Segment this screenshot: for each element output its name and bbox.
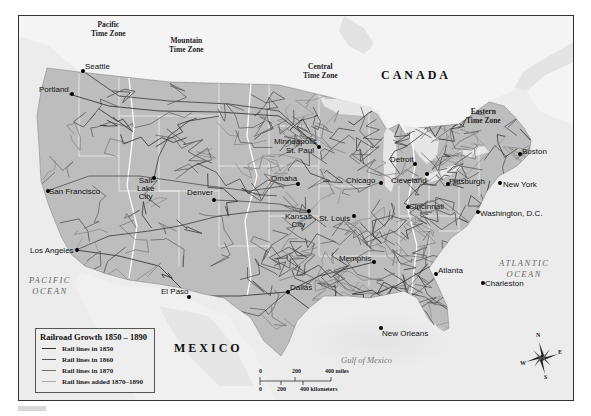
pacific-ocean-label: PACIFICOCEAN	[29, 275, 71, 297]
scale-miles-400: 400 miles	[325, 368, 349, 374]
city-label-pittsburgh: Pittsburgh	[449, 177, 485, 186]
compass-e: E	[558, 349, 562, 355]
city-label-st-paul: St. Paul	[286, 146, 314, 155]
city-label-los-angeles: Los Angeles	[30, 246, 74, 255]
compass-s: S	[544, 374, 547, 380]
city-label-new-orleans: New Orleans	[382, 329, 428, 338]
city-label-washington-dc: Washington, D.C.	[480, 209, 542, 218]
city-label-minneapolis: Minneapolis	[274, 137, 317, 146]
city-marker-st-louis	[352, 214, 356, 218]
city-label-san-francisco: San Francisco	[49, 187, 100, 196]
mexico-label: MEXICO	[174, 341, 243, 356]
legend-item-1860: Rail lines in 1860	[40, 354, 150, 365]
legend-label-1850: Rail lines in 1850	[62, 345, 113, 353]
city-marker-denver	[212, 198, 216, 202]
legend-label-1870: Rail lines in 1870	[62, 367, 113, 375]
scale-km-400: 400 kilometers	[300, 386, 338, 392]
city-label-cleveland: Cleveland	[391, 176, 427, 185]
compass-n: N	[536, 332, 540, 338]
legend-swatch-1870	[42, 370, 56, 371]
scale-km-0: 0	[259, 386, 262, 392]
city-label-st-louis: St. Louis	[319, 214, 350, 223]
legend-swatch-1860	[42, 359, 56, 360]
city-marker-memphis	[372, 260, 376, 264]
city-label-salt-lake-city: SaltLakeCity	[137, 177, 154, 201]
timezone-label-mountain: MountainTime Zone	[169, 36, 204, 54]
legend-swatch-1890	[42, 381, 56, 382]
city-label-omaha: Omaha	[271, 174, 297, 183]
timezone-label-central: CentralTime Zone	[303, 62, 338, 80]
legend-label-1890: Rail lines added 1870–1890	[62, 378, 143, 386]
city-marker-st-paul	[317, 145, 321, 149]
atlantic-ocean-label: ATLANTICOCEAN	[499, 258, 549, 280]
city-label-memphis: Memphis	[339, 254, 371, 263]
city-marker-chicago	[379, 181, 383, 185]
canada-label: CANADA	[381, 68, 451, 83]
city-marker-portland	[70, 92, 74, 96]
map-legend: Railroad Growth 1850 – 1890 Rail lines i…	[35, 328, 155, 393]
timezone-label-eastern: EasternTime Zone	[466, 107, 501, 125]
scale-km-200: 200	[277, 386, 286, 392]
city-label-portland: Portland	[39, 85, 69, 94]
legend-item-1850: Rail lines in 1850	[40, 343, 150, 354]
city-marker-new-york	[498, 181, 502, 185]
city-label-kansas-city: KansasCity	[285, 213, 312, 229]
compass-w: W	[520, 360, 526, 366]
city-label-seattle: Seattle	[85, 62, 110, 71]
city-label-charleston: Charleston	[485, 279, 524, 288]
legend-label-1860: Rail lines in 1860	[62, 356, 113, 364]
legend-item-1870: Rail lines in 1870	[40, 365, 150, 376]
legend-swatch-1850	[42, 348, 56, 349]
compass-rose-icon: N S E W	[522, 336, 562, 380]
legend-item-1890: Rail lines added 1870–1890	[40, 376, 150, 387]
map-frame: PacificTime Zone MountainTime Zone Centr…	[18, 15, 574, 401]
city-label-el-paso: El Paso	[161, 287, 189, 296]
city-label-chicago: Chicago	[346, 176, 375, 185]
timezone-label-pacific: PacificTime Zone	[91, 20, 126, 38]
city-label-new-york: New York	[503, 180, 537, 189]
scale-bar: 0 200 400 miles 0 200 400 kilometers	[259, 368, 379, 398]
legend-title: Railroad Growth 1850 – 1890	[40, 332, 150, 342]
scale-miles-200: 200	[292, 368, 301, 374]
scale-miles-0: 0	[259, 368, 262, 374]
city-label-atlanta: Atlanta	[438, 266, 463, 275]
city-marker-los-angeles	[75, 248, 79, 252]
city-label-denver: Denver	[187, 188, 213, 197]
city-label-detroit: Detroit	[390, 155, 414, 164]
city-label-cincinnati: Cincinnati	[409, 202, 444, 211]
scale-bar-line	[259, 376, 339, 386]
city-label-dallas: Dallas	[290, 283, 312, 292]
gulf-of-mexico-label: Gulf of Mexico	[341, 355, 392, 365]
city-label-boston: Boston	[522, 147, 547, 156]
footer-mark	[18, 406, 46, 411]
